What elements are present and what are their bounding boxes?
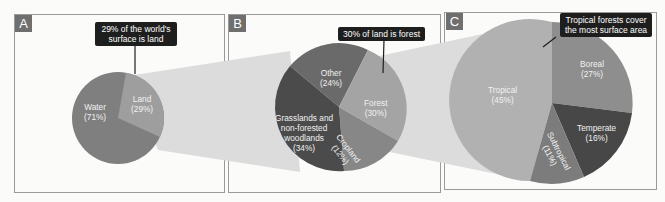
label-grasslands-pct: (34%) [275, 143, 333, 153]
callout-a: 29% of the world's surface is land [95, 22, 177, 46]
label-boreal-name: Boreal [580, 59, 604, 69]
panel-letter-c: C [446, 13, 463, 30]
label-grasslands-line2: non-forested [275, 123, 333, 133]
label-water-pct: (71%) [84, 112, 106, 122]
label-temperate-name: Temperate [577, 123, 616, 133]
label-forest: Forest (30%) [364, 98, 388, 118]
label-tropical: Tropical (45%) [488, 85, 517, 105]
label-land-pct: (29%) [131, 104, 153, 114]
panel-letter-b: B [229, 15, 246, 32]
callout-c: Tropical forests cover the most surface … [560, 13, 652, 37]
callout-b: 30% of land is forest [338, 27, 425, 41]
label-other-pct: (24%) [320, 78, 342, 88]
label-other: Other (24%) [320, 68, 342, 88]
label-temperate: Temperate (16%) [577, 123, 616, 143]
label-water: Water (71%) [84, 102, 106, 122]
label-temperate-pct: (16%) [577, 133, 616, 143]
label-other-name: Other [320, 68, 342, 78]
label-land: Land (29%) [131, 94, 153, 114]
label-grasslands: Grasslands and non-forested woodlands (3… [275, 113, 333, 153]
panel-letter-a: A [15, 15, 32, 32]
label-water-name: Water [84, 102, 106, 112]
label-grasslands-line3: woodlands [275, 133, 333, 143]
label-tropical-pct: (45%) [488, 95, 517, 105]
label-tropical-name: Tropical [488, 85, 517, 95]
pie-c [449, 19, 632, 184]
label-forest-name: Forest [364, 98, 388, 108]
label-boreal-pct: (27%) [580, 69, 604, 79]
label-grasslands-line1: Grasslands and [275, 113, 333, 123]
label-boreal: Boreal (27%) [580, 59, 604, 79]
label-land-name: Land [131, 94, 153, 104]
label-forest-pct: (30%) [364, 108, 388, 118]
